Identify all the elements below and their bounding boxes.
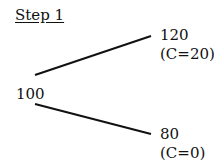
- root-node-value: 100: [16, 86, 45, 102]
- down-node-payoff: (C=0): [160, 145, 205, 161]
- down-node-value: 80: [160, 126, 179, 142]
- down-branch-line: [35, 104, 151, 134]
- up-node-payoff: (C=20): [160, 46, 215, 62]
- up-branch-line: [35, 36, 151, 75]
- up-node-value: 120: [160, 27, 189, 43]
